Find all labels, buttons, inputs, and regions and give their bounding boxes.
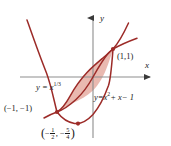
math-figure: y x (1,1) (−1, −1) (−12, −54) y = x1/3 y… (0, 0, 171, 146)
point-upper-intersection (111, 47, 115, 51)
vertex-x-denominator: 2 (50, 133, 55, 140)
vertex-x-fraction: 12 (50, 127, 55, 141)
label-cube-root-equation: y = x1/3 (36, 82, 61, 91)
vertex-y-sign: − (60, 128, 65, 138)
label-parabola-equation: y=x2+ x− 1 (94, 92, 134, 101)
point-parabola-vertex (76, 122, 80, 126)
x-axis-label: x (145, 61, 149, 70)
parabola-plus-x: + x (110, 92, 122, 102)
label-point-lower-intersection: (−1, −1) (4, 104, 32, 113)
point-lower-intersection (55, 110, 59, 114)
label-point-upper-intersection: (1,1) (117, 52, 133, 61)
vertex-comma: , (56, 128, 58, 138)
plot-canvas (0, 0, 171, 146)
vertex-y-fraction: 54 (65, 127, 70, 141)
cube-root-exponent: 1/3 (54, 81, 61, 87)
cube-root-y: y (36, 82, 40, 92)
vertex-x-sign: − (45, 128, 50, 138)
label-point-parabola-vertex: (−12, −54) (41, 126, 75, 141)
parabola-minus-one: − 1 (122, 92, 134, 102)
y-axis-label: y (100, 14, 104, 23)
vertex-paren-close: ) (71, 126, 75, 140)
cube-root-equals: = (42, 82, 48, 92)
vertex-paren-open: ( (41, 126, 45, 140)
vertex-y-denominator: 4 (65, 133, 70, 140)
